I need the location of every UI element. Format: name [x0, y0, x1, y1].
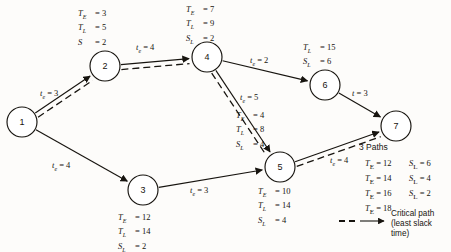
stat-row: TL= 8: [236, 124, 264, 138]
node-5[interactable]: 5: [265, 152, 295, 182]
node-label-7: 7: [393, 121, 398, 131]
node-stats-5: TE= 10TL= 14SL= 4: [258, 186, 290, 229]
edge-2-4: [121, 59, 189, 65]
legend-arrow-icon: [338, 214, 390, 228]
paths-row: TE = 14SL = 4: [365, 173, 449, 188]
node-6[interactable]: 6: [310, 70, 340, 100]
node-label-4: 4: [204, 52, 209, 62]
legend-text: Critical path (least slack time): [391, 209, 434, 239]
paths-row: TE = 12SL = 6: [365, 158, 449, 173]
edge-label-1-2: te = 3: [40, 88, 58, 102]
node-stats-2: TE= 3TL= 5S= 2: [78, 8, 106, 47]
edge-label-4-5: te = 5: [240, 92, 258, 106]
stat-row: SL= 6: [303, 56, 335, 70]
edge-label-4-6: te = 2: [250, 55, 268, 69]
node-label-1: 1: [19, 117, 24, 127]
stat-row: SL= 2: [186, 33, 214, 47]
legend-line-3: time): [391, 229, 434, 239]
paths-title: 3 Paths: [359, 142, 388, 152]
stat-row: TL= 15: [303, 42, 335, 56]
stat-row: TE= 3: [78, 8, 106, 22]
stat-row: TE= 10: [258, 186, 290, 200]
stat-row: SL= 4: [258, 215, 290, 229]
stat-row: TL= 14: [258, 200, 290, 214]
node-2[interactable]: 2: [90, 51, 120, 81]
node-stats-4: TE= 7TL= 9SL= 2: [186, 4, 214, 47]
stat-row: TL= 5: [78, 22, 106, 36]
edge-1-3: [36, 130, 127, 181]
node-stats-5-upper: TE= 4TL= 8SL= 4: [236, 110, 264, 153]
paths-row: TE = 16SL = 2: [365, 188, 449, 203]
stat-row: SL= 4: [236, 139, 264, 153]
legend-line-1: Critical path: [391, 209, 434, 219]
legend-line-2: (least slack: [391, 219, 434, 229]
node-label-5: 5: [277, 162, 282, 172]
node-3[interactable]: 3: [128, 175, 158, 205]
node-label-6: 6: [322, 80, 327, 90]
stat-row: TL= 14: [118, 226, 150, 240]
stat-row: TE= 4: [236, 110, 264, 124]
edge-3-5: [159, 170, 262, 187]
stat-row: SL= 2: [118, 241, 150, 252]
node-stats-6: TL= 15SL= 6: [303, 42, 335, 71]
critical-edge-2-4: [121, 64, 189, 70]
edge-label-5-7: te = 4: [330, 155, 348, 169]
node-stats-3: TE= 12TL= 14SL= 2: [118, 212, 150, 252]
edge-label-3-5: te = 3: [190, 185, 208, 199]
stat-row: TL= 9: [186, 18, 214, 32]
edge-label-1-3: te = 4: [52, 160, 70, 174]
node-1[interactable]: 1: [7, 107, 37, 137]
stat-row: TE= 12: [118, 212, 150, 226]
node-7[interactable]: 7: [381, 111, 411, 141]
edge-label-6-7: t = 3: [352, 88, 368, 99]
node-layer: 1234567: [7, 42, 411, 205]
stat-row: TE= 7: [186, 4, 214, 18]
node-label-3: 3: [140, 185, 145, 195]
node-label-2: 2: [102, 61, 107, 71]
edge-label-2-4: te = 4: [136, 42, 154, 56]
stat-row: S= 2: [78, 37, 106, 48]
